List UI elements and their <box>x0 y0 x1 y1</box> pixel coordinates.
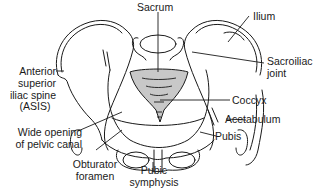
label-obturator-line1: Obturator <box>70 159 120 170</box>
label-pubic-symphysis-line2: symphysis <box>128 177 180 188</box>
label-sacrum: Sacrum <box>137 2 173 13</box>
label-asis-line2: superior <box>2 78 56 89</box>
label-acetabulum: Acetabulum <box>225 114 280 125</box>
label-asis-line4: (ASIS) <box>10 101 60 112</box>
label-asis-line1: Anterior <box>2 66 56 77</box>
label-pubic-symphysis-line1: Pubic <box>128 165 180 176</box>
label-wide-opening-line1: Wide opening <box>2 127 82 138</box>
label-sacroiliac-joint-line2: joint <box>267 68 286 79</box>
label-wide-opening-line2: of pelvic canal <box>2 139 82 150</box>
label-sacroiliac-joint-line1: Sacroiliac <box>267 56 313 67</box>
label-coccyx: Coccyx <box>232 95 266 106</box>
label-ilium: Ilium <box>253 11 275 22</box>
label-obturator-line2: foramen <box>70 171 120 182</box>
pelvis-diagram: Sacrum Ilium Sacroiliac joint Anterior s… <box>0 0 315 191</box>
label-pubis: Pubis <box>215 131 241 142</box>
